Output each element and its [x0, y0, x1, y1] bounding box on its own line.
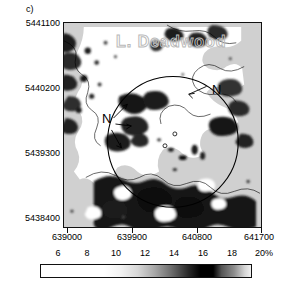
map-annotation-overlay: L. Deadwood N N	[64, 23, 261, 227]
figure-panel: c) 5441100 5440200 5439300 5438400	[0, 0, 284, 286]
n-marker-right: N	[212, 82, 221, 97]
colorbar-tick-label: 6	[55, 248, 60, 258]
y-tick-label: 5438400	[25, 213, 60, 223]
colorbar-tick-label: 14	[169, 248, 179, 258]
colorbar-tick-label: 16	[198, 248, 208, 258]
x-tick-label: 639000	[52, 232, 82, 242]
colorbar-tick-label: 20%	[255, 248, 273, 258]
x-tick-label: 639900	[117, 232, 147, 242]
y-tick-label: 5439300	[25, 148, 60, 158]
colorbar-labels: 6 8 10 12 14 16 18 20%	[0, 248, 284, 260]
x-tick-label: 641700	[244, 232, 274, 242]
colorbar-gradient	[40, 264, 252, 278]
colorbar-tick-label: 8	[84, 248, 89, 258]
y-axis-labels: 5441100 5440200 5439300 5438400	[0, 0, 60, 286]
y-tick-label: 5441100	[26, 18, 60, 28]
colorbar-tick-label: 12	[140, 248, 150, 258]
x-tick-label: 640800	[182, 232, 212, 242]
colorbar-tick-label: 10	[111, 248, 121, 258]
colorbar-tick-label: 18	[227, 248, 237, 258]
n-marker-left: N	[102, 111, 111, 126]
lake-name-label: L. Deadwood	[116, 33, 227, 51]
y-tick-label: 5440200	[25, 83, 60, 93]
map-plot-area: L. Deadwood N N	[63, 22, 262, 228]
